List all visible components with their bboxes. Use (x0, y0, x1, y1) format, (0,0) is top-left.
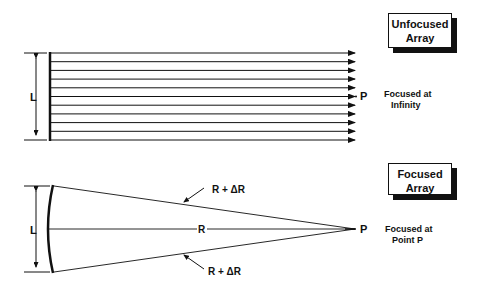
radius-R-label: R (198, 224, 206, 235)
unfocused-title-line2: Array (389, 31, 451, 45)
focused-array-diagram: L P R R + ΔR R + ΔR (24, 184, 367, 277)
unfocused-L-label: L (30, 91, 37, 103)
lower-path-label: R + ΔR (208, 266, 242, 277)
unfocused-title-line1: Unfocused (389, 17, 451, 31)
focused-title-line1: Focused (389, 167, 451, 181)
upper-path-label: R + ΔR (212, 184, 246, 195)
parallel-rays (51, 53, 355, 140)
unfocused-note: Focused at Infinity (384, 89, 432, 111)
unfocused-P-label: P (360, 90, 367, 102)
unfocused-array-diagram: L P (24, 52, 367, 141)
focused-array-title-box: Focused Array (388, 163, 452, 195)
focused-note: Focused at Point P (385, 224, 433, 246)
unfocused-array-title-box: Unfocused Array (388, 13, 452, 48)
focused-note-line2: Point P (385, 235, 433, 246)
focused-L-label: L (30, 224, 37, 236)
focused-P-label: P (360, 223, 367, 235)
focused-note-line1: Focused at (385, 224, 433, 235)
focused-title-line2: Array (389, 181, 451, 195)
unfocused-note-line2: Infinity (384, 100, 432, 111)
unfocused-note-line1: Focused at (384, 89, 432, 100)
